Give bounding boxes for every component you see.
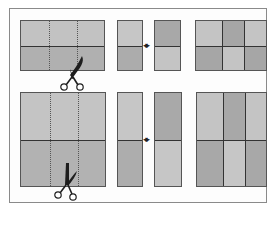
grid-cell bbox=[244, 46, 266, 70]
bottom-result-grid bbox=[196, 92, 267, 187]
fold-line bbox=[21, 46, 104, 47]
grid-cell bbox=[197, 140, 223, 186]
grid-cell bbox=[196, 46, 222, 70]
top-half bbox=[21, 21, 104, 46]
grid-cell bbox=[222, 46, 244, 70]
piece-a-top bbox=[118, 93, 142, 140]
top-piece-b bbox=[154, 20, 181, 71]
piece-a-bottom bbox=[118, 140, 142, 186]
scissors-icon bbox=[52, 163, 82, 201]
fold-line bbox=[155, 140, 181, 141]
grid-cell bbox=[223, 93, 245, 140]
fold-line bbox=[118, 46, 142, 47]
top-result-grid bbox=[195, 20, 267, 71]
grid-cell bbox=[223, 140, 245, 186]
dotted-cut-line-1 bbox=[49, 21, 50, 70]
double-arrow-icon: ◂▸ bbox=[143, 135, 148, 144]
fold-line bbox=[118, 140, 142, 141]
grid-col-line-2 bbox=[245, 93, 246, 186]
bottom-piece-b bbox=[154, 92, 182, 187]
top-piece-a bbox=[117, 20, 143, 71]
grid-cell bbox=[244, 21, 266, 46]
piece-b-top bbox=[155, 93, 181, 140]
grid-row-line bbox=[196, 46, 266, 47]
grid-cell bbox=[222, 21, 244, 46]
piece-b-bottom bbox=[155, 46, 180, 70]
scissors-icon bbox=[58, 56, 88, 92]
grid-cell bbox=[196, 21, 222, 46]
double-arrow-icon: ◂▸ bbox=[143, 41, 148, 50]
dotted-cut-line-1 bbox=[50, 93, 51, 186]
grid-row-line bbox=[197, 140, 266, 141]
grid-col-line-1 bbox=[222, 21, 223, 70]
piece-b-top bbox=[155, 21, 180, 46]
top-half bbox=[21, 93, 105, 140]
piece-a-top bbox=[118, 21, 142, 46]
fold-line bbox=[21, 140, 105, 141]
grid-cell bbox=[245, 140, 266, 186]
fold-line bbox=[155, 46, 180, 47]
bottom-piece-a bbox=[117, 92, 143, 187]
piece-a-bottom bbox=[118, 46, 142, 70]
grid-cell bbox=[197, 93, 223, 140]
grid-cell bbox=[245, 93, 266, 140]
grid-col-line-1 bbox=[223, 93, 224, 186]
grid-col-line-2 bbox=[244, 21, 245, 70]
piece-b-bottom bbox=[155, 140, 181, 186]
